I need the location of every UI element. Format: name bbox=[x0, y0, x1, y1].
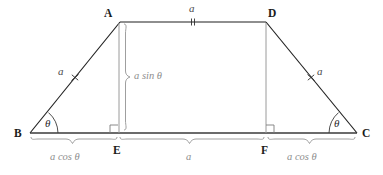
geometry-diagram: A D B C E F a a a a sin θ a cos θ a a co… bbox=[0, 0, 383, 175]
angle-label-B: θ bbox=[45, 118, 50, 129]
vertex-label-E: E bbox=[113, 145, 121, 157]
length-label-top-side: a bbox=[189, 3, 195, 14]
brace-base-middle bbox=[120, 137, 264, 144]
vertex-label-B: B bbox=[14, 128, 22, 140]
tick-mark-leg-DC bbox=[308, 75, 315, 81]
length-label-base-right: a cos θ bbox=[287, 152, 317, 163]
diagram-canvas bbox=[0, 0, 383, 175]
vertex-label-F: F bbox=[261, 145, 268, 157]
angle-label-C: θ bbox=[334, 118, 339, 129]
right-angle-marker-F bbox=[266, 125, 274, 133]
length-label-base-middle: a bbox=[186, 152, 191, 163]
vertex-label-A: A bbox=[104, 8, 112, 20]
length-label-left-leg: a bbox=[58, 66, 64, 77]
length-label-height: a sin θ bbox=[134, 71, 162, 82]
vertex-label-D: D bbox=[268, 8, 276, 20]
vertex-label-C: C bbox=[362, 128, 370, 140]
brace-height bbox=[124, 24, 130, 130]
length-label-base-left: a cos θ bbox=[50, 152, 80, 163]
tick-mark-leg-BA bbox=[72, 75, 79, 81]
right-angle-marker-E bbox=[110, 125, 118, 133]
brace-base-right bbox=[268, 137, 355, 144]
length-label-right-leg: a bbox=[317, 66, 323, 77]
brace-base-left bbox=[31, 137, 117, 144]
